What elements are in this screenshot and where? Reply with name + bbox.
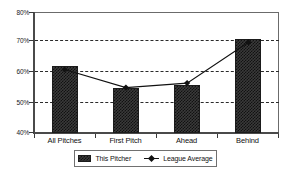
x-tick-mark-4 [278, 134, 279, 138]
legend-item-this-pitcher: This Pitcher [78, 155, 131, 162]
chart-legend: This Pitcher League Average [74, 150, 217, 167]
x-axis-label-behind: Behind [217, 136, 278, 145]
league-average-marker-0 [61, 66, 67, 72]
legend-label-this-pitcher: This Pitcher [95, 155, 131, 162]
y-axis-label-50: 50% [1, 99, 29, 106]
line-series-league-average [34, 12, 279, 133]
league-average-polyline [65, 42, 249, 87]
swatch-pattern-icon [78, 155, 91, 162]
y-axis-label-60: 60% [1, 68, 29, 75]
league-average-marker-2 [184, 80, 190, 86]
y-axis-label-40: 40% [1, 129, 29, 136]
legend-item-league-average: League Average [144, 155, 212, 162]
legend-label-league-average: League Average [163, 155, 212, 162]
y-axis-label-70: 70% [1, 37, 29, 44]
league-average-markers [61, 39, 251, 91]
x-axis-label-first-pitch: First Pitch [95, 136, 156, 145]
league-average-marker-3 [245, 39, 251, 45]
league-average-marker-1 [123, 84, 129, 90]
x-axis-label-ahead: Ahead [156, 136, 217, 145]
y-axis-label-80: 80% [1, 9, 29, 16]
line-diamond-icon [144, 155, 159, 162]
x-axis-label-all-pitches: All Pitches [34, 136, 95, 145]
chart-container: 80% 70% 60% 50% 40% All Pitches First Pi… [0, 0, 289, 172]
